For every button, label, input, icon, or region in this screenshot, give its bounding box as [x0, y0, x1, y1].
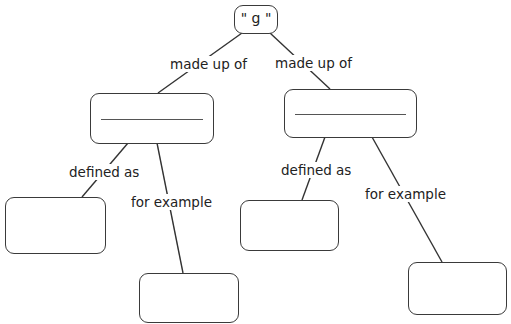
- left-for-example-label: for example: [130, 194, 213, 210]
- right-for-example-label: for example: [364, 186, 447, 202]
- right-made-up-of-label: made up of: [274, 55, 353, 71]
- left-made-up-of-label: made up of: [169, 56, 248, 72]
- left-defined-as-label: defined as: [68, 164, 140, 180]
- left-mid-blank-line: [101, 119, 203, 120]
- left-mid-node[interactable]: [90, 93, 214, 144]
- right-defined-node[interactable]: [240, 200, 339, 251]
- right-mid-node[interactable]: [284, 89, 417, 138]
- left-defined-node[interactable]: [5, 197, 106, 254]
- left-example-node[interactable]: [139, 273, 239, 323]
- root-node-text: " g ": [235, 10, 277, 26]
- right-defined-as-label: defined as: [280, 162, 352, 178]
- right-example-node[interactable]: [408, 262, 507, 315]
- right-mid-blank-line: [295, 114, 406, 115]
- root-node: " g ": [234, 5, 278, 34]
